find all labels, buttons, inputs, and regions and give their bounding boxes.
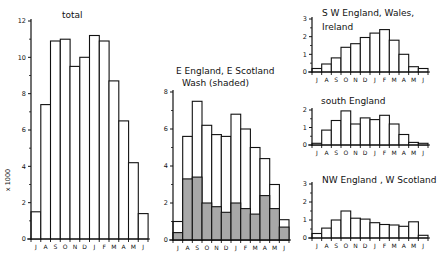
month-label: J bbox=[315, 149, 318, 157]
chart-title: south England bbox=[321, 96, 386, 106]
month-label: J bbox=[373, 149, 376, 157]
month-label: F bbox=[102, 243, 106, 250]
month-label: N bbox=[214, 244, 219, 251]
month-label: F bbox=[383, 242, 387, 249]
month-label: D bbox=[82, 243, 87, 250]
y-tick-label: 8 bbox=[22, 90, 26, 98]
bar bbox=[70, 66, 80, 239]
chart-south-england: south England012JASONDJFMAMJ bbox=[303, 96, 430, 157]
shaded-bar bbox=[279, 227, 289, 240]
month-label: M bbox=[111, 243, 116, 250]
y-tick-label: 1 bbox=[303, 51, 307, 59]
bar bbox=[399, 226, 409, 238]
month-label: J bbox=[176, 244, 179, 252]
bar bbox=[331, 58, 341, 72]
shaded-bar bbox=[241, 209, 251, 240]
shaded-bar bbox=[212, 207, 222, 240]
bar bbox=[80, 57, 90, 239]
bar bbox=[389, 124, 399, 145]
chart-title: NW England , W Scotland bbox=[322, 175, 437, 185]
month-label: F bbox=[383, 76, 387, 83]
bar bbox=[109, 81, 119, 239]
bar bbox=[341, 211, 351, 238]
month-label: N bbox=[353, 76, 358, 83]
month-label: M bbox=[272, 244, 277, 251]
month-label: J bbox=[421, 76, 424, 84]
shaded-bar bbox=[270, 209, 280, 240]
chart-title: S W England, Wales, bbox=[322, 8, 414, 18]
month-label: J bbox=[34, 243, 37, 251]
month-label: M bbox=[411, 149, 416, 156]
month-label: O bbox=[343, 149, 348, 156]
month-label: M bbox=[411, 242, 416, 249]
month-label: N bbox=[73, 243, 78, 250]
month-label: O bbox=[204, 244, 209, 251]
bar bbox=[341, 47, 351, 72]
month-label: J bbox=[92, 243, 95, 251]
bar bbox=[351, 218, 361, 238]
shaded-bar bbox=[202, 203, 212, 240]
month-label: A bbox=[122, 243, 127, 250]
month-label: D bbox=[224, 244, 229, 251]
month-label: M bbox=[411, 76, 416, 83]
chart-title: E England, E Scotland bbox=[176, 66, 274, 76]
bar bbox=[41, 105, 51, 239]
y-tick-label: 2 bbox=[303, 106, 307, 114]
y-tick-label: 0 bbox=[303, 234, 307, 242]
month-label: A bbox=[324, 242, 329, 249]
month-label: S bbox=[53, 243, 57, 250]
y-tick-label: 0 bbox=[22, 235, 26, 243]
bar bbox=[331, 220, 341, 238]
bar bbox=[399, 54, 409, 72]
month-label: J bbox=[373, 76, 376, 84]
bar bbox=[341, 111, 351, 145]
y-tick-label: 2 bbox=[164, 199, 168, 207]
shaded-bar bbox=[183, 179, 193, 240]
chart-total: total024681012JASONDJFMAMJx 1000 bbox=[4, 10, 150, 251]
bar bbox=[360, 38, 370, 73]
y-tick-label: 3 bbox=[303, 15, 307, 23]
bar bbox=[360, 118, 370, 145]
month-label: J bbox=[421, 242, 424, 250]
bar bbox=[322, 228, 332, 238]
month-label: N bbox=[353, 149, 358, 156]
shaded-bar bbox=[260, 196, 270, 240]
month-label: J bbox=[282, 244, 285, 252]
month-label: M bbox=[392, 76, 397, 83]
chart-title: total bbox=[62, 10, 83, 20]
y-tick-label: 6 bbox=[164, 125, 168, 133]
month-label: M bbox=[392, 149, 397, 156]
bar bbox=[409, 222, 419, 238]
bar bbox=[370, 223, 380, 238]
month-label: J bbox=[373, 242, 376, 250]
month-label: S bbox=[334, 149, 338, 156]
bar bbox=[119, 121, 129, 239]
chart-sw-england-wales-ireland: S W England, Wales,Ireland0123JASONDJFMA… bbox=[303, 8, 430, 84]
bar bbox=[370, 33, 380, 72]
shaded-bar bbox=[231, 203, 241, 240]
y-tick-label: 0 bbox=[303, 68, 307, 76]
bar bbox=[90, 36, 100, 240]
bar bbox=[351, 44, 361, 72]
y-tick-label: 4 bbox=[164, 162, 168, 170]
y-tick-label: 2 bbox=[303, 198, 307, 206]
month-label: D bbox=[363, 242, 368, 249]
month-label: D bbox=[363, 76, 368, 83]
month-label: O bbox=[343, 242, 348, 249]
bar bbox=[360, 219, 370, 238]
month-label: M bbox=[253, 244, 258, 251]
month-label: J bbox=[421, 149, 424, 157]
month-label: D bbox=[363, 149, 368, 156]
bar bbox=[389, 225, 399, 238]
month-label: F bbox=[244, 244, 248, 251]
chart-subtitle: Ireland bbox=[322, 22, 353, 32]
bar bbox=[370, 120, 380, 145]
bar bbox=[312, 234, 322, 239]
month-label: A bbox=[185, 244, 190, 251]
bar bbox=[380, 30, 390, 72]
chart-subtitle: Wash (shaded) bbox=[182, 78, 249, 88]
bar bbox=[60, 39, 70, 239]
month-label: N bbox=[353, 242, 358, 249]
chart-east-england-scotland: E England, E ScotlandWash (shaded)02468J… bbox=[164, 66, 291, 252]
shaded-bar bbox=[221, 212, 231, 240]
